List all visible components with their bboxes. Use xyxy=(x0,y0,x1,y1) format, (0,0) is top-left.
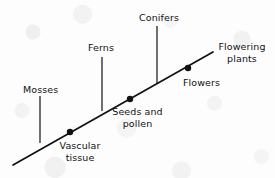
node-label-vascular-tissue: Vascular tissue xyxy=(55,140,105,163)
node-dot-vascular-tissue xyxy=(67,129,73,135)
evolutionary-trend-diagram: Mosses Ferns Conifers Vascular tissue Se… xyxy=(0,0,275,178)
terminal-label-flowering-plants: Flowering plants xyxy=(212,41,272,64)
node-dot-seeds-and-pollen xyxy=(127,96,133,102)
branch-label-conifers: Conifers xyxy=(139,12,179,24)
node-label-flowers: Flowers xyxy=(183,77,220,89)
branch-label-ferns: Ferns xyxy=(88,42,114,54)
branch-label-mosses: Mosses xyxy=(23,84,58,96)
node-dot-flowers xyxy=(185,65,191,71)
node-label-seeds-and-pollen: Seeds and pollen xyxy=(110,106,165,129)
